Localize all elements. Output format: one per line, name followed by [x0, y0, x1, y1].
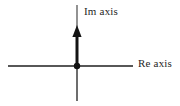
origin-dot-icon [74, 63, 80, 69]
real-axis-label: Re axis [138, 57, 172, 69]
arrow-up-icon [72, 25, 81, 37]
imaginary-axis-label: Im axis [84, 5, 118, 17]
complex-plane-diagram: Im axis Re axis [0, 0, 180, 106]
